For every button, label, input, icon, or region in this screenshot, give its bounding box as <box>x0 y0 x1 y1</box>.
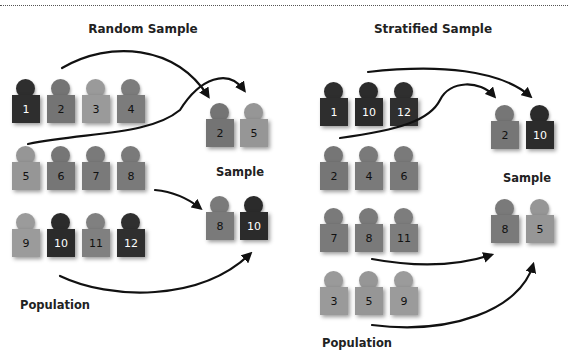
arrow-random-2 <box>62 51 208 96</box>
arrow-strat-8 <box>372 255 491 264</box>
arrow-strat-2 <box>340 84 494 138</box>
arrow-strat-10 <box>368 69 530 96</box>
arrow-random-5 <box>28 78 244 144</box>
arrow-random-8 <box>155 190 200 208</box>
arrow-random-10 <box>60 254 250 293</box>
arrow-strat-5 <box>372 265 533 327</box>
selection-arrows <box>0 0 568 358</box>
